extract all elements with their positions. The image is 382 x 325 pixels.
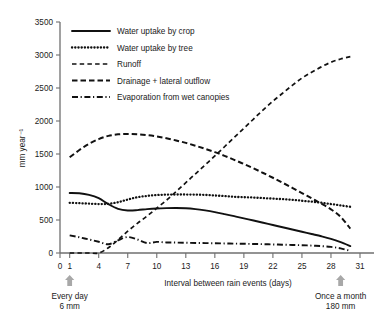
- x-tick-label: 7: [125, 262, 130, 271]
- y-tick-label: 500: [39, 216, 53, 225]
- y-tick-label: 1500: [35, 150, 54, 159]
- x-tick-label: 13: [181, 262, 191, 271]
- annotation-text-every-day-0: Every day: [51, 292, 88, 301]
- x-tick-label: 28: [326, 262, 336, 271]
- y-tick-label: 0: [48, 249, 53, 258]
- y-tick-label: 2500: [35, 84, 54, 93]
- legend-label-1: Water uptake by tree: [117, 44, 193, 53]
- chart-container: 0500100015002000250030003500014710131619…: [0, 0, 382, 325]
- annotation-text-once-a-month-1: 180 mm: [326, 302, 356, 311]
- annotation-text-once-a-month-0: Once a month: [315, 292, 367, 301]
- y-tick-label: 3500: [35, 18, 54, 27]
- x-tick-label: 25: [297, 262, 307, 271]
- x-tick-label: 16: [210, 262, 220, 271]
- y-tick-label: 1000: [35, 183, 54, 192]
- x-tick-label: 1: [67, 262, 72, 271]
- x-tick-label: 22: [268, 262, 278, 271]
- x-tick-label: 31: [355, 262, 365, 271]
- legend-label-4: Evaporation from wet canopies: [117, 93, 229, 102]
- annotation-text-every-day-1: 6 mm: [59, 302, 80, 311]
- x-tick-label: 10: [152, 262, 162, 271]
- x-tick-label: 0: [58, 262, 63, 271]
- x-axis-title: Interval between rain events (days): [164, 279, 292, 288]
- x-tick-label: 4: [96, 262, 101, 271]
- legend-label-0: Water uptake by crop: [117, 27, 195, 36]
- y-tick-label: 3000: [35, 51, 54, 60]
- rainfall-partitioning-line-chart: 0500100015002000250030003500014710131619…: [0, 0, 382, 325]
- legend-label-2: Runoff: [117, 60, 142, 69]
- legend-label-3: Drainage + lateral outflow: [117, 77, 210, 86]
- x-tick-label: 19: [239, 262, 249, 271]
- y-tick-label: 2000: [35, 117, 54, 126]
- y-axis-title: mm year⁻¹: [18, 128, 27, 167]
